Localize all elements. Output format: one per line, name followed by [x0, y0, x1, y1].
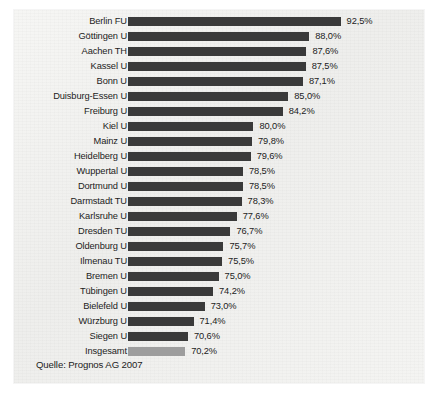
- value-label: 78,5%: [249, 179, 275, 194]
- category-label: Würzburg U: [0, 314, 127, 329]
- value-label: 70,6%: [194, 329, 220, 344]
- bar-track: [128, 152, 358, 161]
- value-label: 75,5%: [228, 254, 254, 269]
- value-label: 87,1%: [309, 74, 335, 89]
- bar-track: [128, 182, 358, 191]
- bar: [128, 77, 303, 86]
- category-label: Darmstadt TU: [0, 194, 127, 209]
- category-label: Bremen U: [0, 269, 127, 284]
- category-label: Freiburg U: [0, 104, 127, 119]
- chart-row: Dresden TU76,7%: [14, 224, 424, 239]
- bar-track: [128, 197, 358, 206]
- bar-track: [128, 317, 358, 326]
- category-label: Kiel U: [0, 119, 127, 134]
- value-label: 92,5%: [347, 14, 373, 29]
- bar: [128, 332, 188, 341]
- bar: [128, 47, 306, 56]
- bar-total: [128, 347, 185, 356]
- value-label: 85,0%: [294, 89, 320, 104]
- category-label: Göttingen U: [0, 29, 127, 44]
- category-label: Dresden TU: [0, 224, 127, 239]
- value-label: 84,2%: [289, 104, 315, 119]
- chart-panel: Berlin FU92,5%Göttingen U88,0%Aachen TH8…: [14, 10, 424, 383]
- value-label: 80,0%: [259, 119, 285, 134]
- bar-track: [128, 17, 358, 26]
- chart-row: Kiel U80,0%: [14, 119, 424, 134]
- value-label: 78,5%: [249, 164, 275, 179]
- bar-track: [128, 302, 358, 311]
- chart-row: Siegen U70,6%: [14, 329, 424, 344]
- chart-row: Bremen U75,0%: [14, 269, 424, 284]
- value-label: 79,6%: [257, 149, 283, 164]
- bar-track: [128, 347, 358, 356]
- chart-row: Ilmenau TU75,5%: [14, 254, 424, 269]
- bar: [128, 287, 213, 296]
- bar: [128, 302, 205, 311]
- bar: [128, 197, 242, 206]
- chart-row: Darmstadt TU78,3%: [14, 194, 424, 209]
- chart-row: Bonn U87,1%: [14, 74, 424, 89]
- value-label: 77,6%: [243, 209, 269, 224]
- value-label: 87,5%: [312, 59, 338, 74]
- category-label: Bielefeld U: [0, 299, 127, 314]
- bar: [128, 242, 223, 251]
- chart-row: Tübingen U74,2%: [14, 284, 424, 299]
- chart-row: Mainz U79,8%: [14, 134, 424, 149]
- chart-row: Heidelberg U79,6%: [14, 149, 424, 164]
- bar: [128, 182, 243, 191]
- value-label: 88,0%: [315, 29, 341, 44]
- category-label: Tübingen U: [0, 284, 127, 299]
- category-label: Ilmenau TU: [0, 254, 127, 269]
- bar: [128, 32, 309, 41]
- bar: [128, 92, 288, 101]
- category-label: Karlsruhe U: [0, 209, 127, 224]
- value-label: 79,8%: [258, 134, 284, 149]
- bar-track: [128, 167, 358, 176]
- bar-chart: Berlin FU92,5%Göttingen U88,0%Aachen TH8…: [14, 10, 424, 350]
- bar: [128, 62, 306, 71]
- chart-row: Duisburg-Essen U85,0%: [14, 89, 424, 104]
- chart-row: Würzburg U71,4%: [14, 314, 424, 329]
- bar: [128, 272, 219, 281]
- value-label: 73,0%: [211, 299, 237, 314]
- bar-track: [128, 92, 358, 101]
- category-label-total: Insgesamt: [0, 344, 127, 359]
- bar: [128, 167, 243, 176]
- bar-track: [128, 332, 358, 341]
- value-label: 74,2%: [219, 284, 245, 299]
- category-label: Mainz U: [0, 134, 127, 149]
- value-label: 76,7%: [236, 224, 262, 239]
- chart-row: Kassel U87,5%: [14, 59, 424, 74]
- chart-row: Oldenburg U75,7%: [14, 239, 424, 254]
- chart-row: Aachen TH87,6%: [14, 44, 424, 59]
- bar: [128, 227, 230, 236]
- category-label: Heidelberg U: [0, 149, 127, 164]
- chart-row: Dortmund U78,5%: [14, 179, 424, 194]
- chart-row: Berlin FU92,5%: [14, 14, 424, 29]
- value-label: 71,4%: [200, 314, 226, 329]
- category-label: Kassel U: [0, 59, 127, 74]
- category-label: Oldenburg U: [0, 239, 127, 254]
- chart-row: Göttingen U88,0%: [14, 29, 424, 44]
- source-note: Quelle: Prognos AG 2007: [36, 359, 143, 370]
- category-label: Bonn U: [0, 74, 127, 89]
- bar: [128, 107, 283, 116]
- bar: [128, 152, 251, 161]
- chart-row: Bielefeld U73,0%: [14, 299, 424, 314]
- value-label: 70,2%: [191, 344, 217, 359]
- value-label: 87,6%: [312, 44, 338, 59]
- bar: [128, 17, 341, 26]
- category-label: Duisburg-Essen U: [0, 89, 127, 104]
- bar-track: [128, 137, 358, 146]
- chart-row: Freiburg U84,2%: [14, 104, 424, 119]
- category-label: Berlin FU: [0, 14, 127, 29]
- bar: [128, 122, 253, 131]
- bar: [128, 317, 194, 326]
- category-label: Aachen TH: [0, 44, 127, 59]
- bar: [128, 137, 252, 146]
- bar-track: [128, 107, 358, 116]
- chart-row: Karlsruhe U77,6%: [14, 209, 424, 224]
- chart-row: Wuppertal U78,5%: [14, 164, 424, 179]
- bar: [128, 212, 237, 221]
- value-label: 75,7%: [229, 239, 255, 254]
